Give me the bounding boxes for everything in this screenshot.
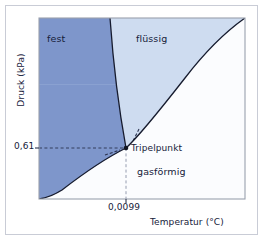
solid-texture-band — [39, 84, 117, 85]
x-axis-tick-label: 0,0099 — [108, 202, 140, 212]
triple-point-marker — [124, 146, 129, 151]
figure-container: fest flüssig gasförmig Tripelpunkt 0,61 … — [0, 0, 264, 250]
region-label-solid: fest — [47, 33, 65, 44]
region-label-gas: gasförmig — [137, 166, 186, 177]
triple-point-label: Tripelpunkt — [131, 143, 182, 153]
phase-diagram-svg — [0, 0, 264, 250]
y-axis-title: Druck (kPa) — [16, 30, 26, 130]
x-axis-title: Temperatur (°C) — [150, 217, 224, 227]
region-label-liquid: flüssig — [136, 33, 167, 44]
y-axis-tick-label: 0,61 — [14, 141, 34, 151]
